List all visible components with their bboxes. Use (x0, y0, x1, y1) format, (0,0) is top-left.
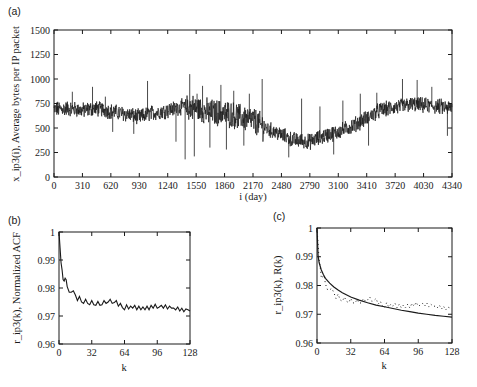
x-tick-label: 1240 (158, 180, 178, 191)
x-tick-label: 128 (445, 346, 460, 357)
panel-b-ticks: 03264961280.960.970.980.991 (38, 227, 198, 359)
y-tick-label: 0.98 (38, 283, 56, 294)
y-tick-label: 0.99 (38, 255, 56, 266)
panel-c-ylabel: r_ip3(k), R(k) (272, 255, 284, 314)
x-tick-label: 64 (380, 346, 390, 357)
x-tick-label: 96 (152, 347, 162, 358)
x-tick-label: 2790 (300, 180, 320, 191)
x-tick-label: 4030 (414, 180, 434, 191)
x-tick-label: 2170 (243, 180, 263, 191)
x-tick-label: 128 (183, 347, 198, 358)
x-tick-label: 64 (120, 347, 130, 358)
y-tick-label: 0.97 (296, 309, 314, 320)
y-tick-label: 1250 (30, 49, 50, 60)
panel-b: (b) 03264961280.960.970.980.991 k r_ip3(… (8, 214, 198, 373)
panel-a-ylabel: x_ip3(i), Average bytes per IP packet (10, 26, 22, 182)
y-tick-label: 0.98 (296, 280, 314, 291)
panel-b-ylabel: r_ip3(k), Normalized ACF (11, 232, 23, 344)
y-tick-label: 0.96 (38, 339, 56, 350)
panel-c-frame (317, 228, 452, 343)
x-tick-label: 0 (57, 347, 62, 358)
x-tick-label: 32 (346, 346, 356, 357)
panel-b-frame (59, 232, 190, 344)
panel-a: (a) 031062093012401550186021702480279031… (8, 5, 462, 203)
x-tick-label: 2480 (271, 180, 291, 191)
panel-a-series-line (54, 96, 452, 150)
panel-a-frame (54, 30, 452, 177)
y-tick-label: 0.99 (296, 251, 314, 262)
x-tick-label: 0 (315, 346, 320, 357)
x-tick-label: 930 (132, 180, 147, 191)
y-tick-label: 1500 (30, 25, 50, 36)
y-tick-label: 250 (35, 147, 50, 158)
x-tick-label: 0 (52, 180, 57, 191)
panel-c-solid-series (317, 228, 452, 317)
x-tick-label: 620 (103, 180, 118, 191)
x-tick-label: 32 (87, 347, 97, 358)
x-tick-label: 3100 (328, 180, 348, 191)
x-tick-label: 310 (75, 180, 90, 191)
panel-label-b: (b) (8, 214, 21, 226)
figure: (a) 031062093012401550186021702480279031… (0, 0, 477, 387)
panel-b-xlabel: k (121, 362, 127, 373)
x-tick-label: 4340 (442, 180, 462, 191)
panel-c-ticks: 03264961280.960.970.980.991 (296, 223, 460, 358)
panel-c-xlabel: k (381, 360, 387, 371)
panel-c-dotted-series (317, 228, 452, 310)
y-tick-label: 0.96 (296, 338, 314, 349)
y-tick-label: 1 (308, 223, 313, 234)
panel-b-series-line (59, 232, 190, 312)
y-tick-label: 0 (45, 172, 50, 183)
panel-label-c: (c) (273, 210, 285, 222)
y-tick-label: 750 (35, 98, 50, 109)
y-tick-label: 1000 (30, 74, 50, 85)
y-tick-label: 0.97 (38, 311, 56, 322)
x-tick-label: 3410 (357, 180, 377, 191)
x-tick-label: 1550 (186, 180, 206, 191)
panel-c: (c) 03264961280.960.970.980.991 k r_ip3(… (272, 210, 460, 371)
x-tick-label: 3720 (385, 180, 405, 191)
y-tick-label: 500 (35, 123, 50, 134)
panel-label-a: (a) (8, 5, 21, 17)
x-tick-label: 96 (413, 346, 423, 357)
y-tick-label: 1 (50, 227, 55, 238)
x-tick-label: 1860 (215, 180, 235, 191)
panel-a-xlabel: i (day) (239, 191, 267, 203)
